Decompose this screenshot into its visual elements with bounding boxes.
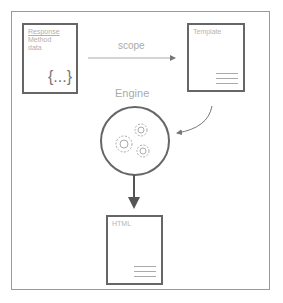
template-box: Template bbox=[187, 23, 245, 92]
response-box: Response Method data {...} bbox=[22, 23, 78, 94]
response-label: Response bbox=[28, 28, 60, 36]
scope-label: scope bbox=[118, 40, 145, 51]
html-box: HTML bbox=[106, 215, 163, 285]
gears-icon bbox=[116, 124, 149, 157]
template-title: Template bbox=[193, 28, 221, 36]
data-label: data bbox=[28, 44, 60, 52]
method-label: Method bbox=[28, 36, 60, 44]
braces-placeholder: {...} bbox=[48, 68, 72, 86]
text-lines-icon bbox=[134, 262, 156, 277]
engine-circle bbox=[101, 107, 169, 175]
engine-label: Engine bbox=[115, 87, 149, 99]
text-lines-icon bbox=[216, 69, 238, 84]
template-to-engine-arrow bbox=[177, 106, 212, 133]
html-title: HTML bbox=[112, 220, 131, 228]
